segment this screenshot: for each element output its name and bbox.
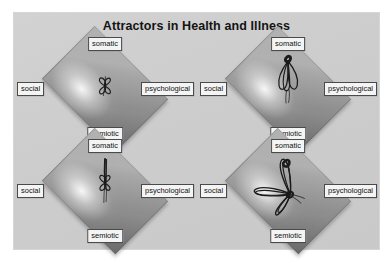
attractor-panel-top-left: somatic social psychological semiotic — [14, 39, 196, 138]
pole-label-psychological: psychological — [141, 82, 194, 96]
pole-label-social: social — [200, 184, 227, 198]
pole-label-social: social — [17, 184, 44, 198]
pole-label-somatic: somatic — [271, 139, 305, 153]
pole-label-psychological: psychological — [141, 184, 194, 198]
attractor-panel-bottom-left: somatic social psychological semiotic — [14, 141, 196, 240]
slide-panel: Attractors in Health and Illness somatic… — [14, 13, 379, 249]
attractor-panel-top-right: somatic social psychological semiotic — [197, 39, 379, 138]
pole-label-somatic: somatic — [88, 139, 122, 153]
pole-label-somatic: somatic — [88, 37, 122, 51]
attractor-panel-bottom-right: somatic social psychological semiotic — [197, 141, 379, 240]
pole-label-semiotic: semiotic — [87, 229, 123, 243]
attractor-curve-top-left — [88, 69, 122, 103]
pole-label-semiotic: semiotic — [270, 229, 306, 243]
pole-label-somatic: somatic — [271, 37, 305, 51]
pole-label-social: social — [200, 82, 227, 96]
figure-root: Attractors in Health and Illness somatic… — [0, 0, 392, 263]
pole-label-psychological: psychological — [324, 184, 377, 198]
attractor-curve-bottom-right — [246, 152, 326, 222]
figure-title: Attractors in Health and Illness — [14, 19, 379, 33]
pole-label-psychological: psychological — [324, 82, 377, 96]
attractor-curve-top-right — [266, 49, 310, 109]
attractor-curve-bottom-left — [88, 153, 122, 215]
pole-label-social: social — [17, 82, 44, 96]
